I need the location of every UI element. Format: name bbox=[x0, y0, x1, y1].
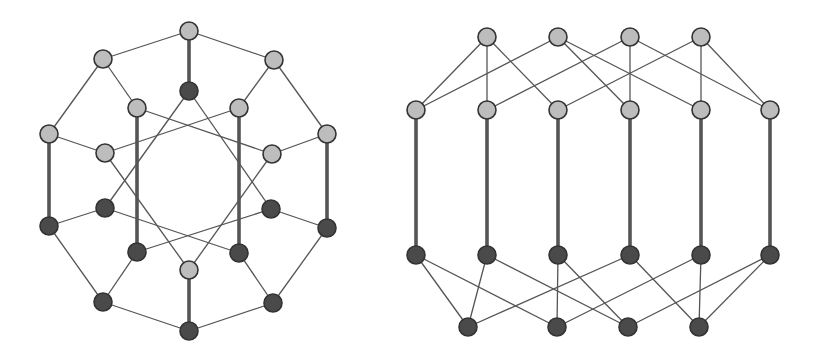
edge-D1-B2 bbox=[416, 255, 557, 327]
light-node-M1 bbox=[407, 101, 425, 119]
edge-D5-B2 bbox=[557, 255, 701, 327]
dark-node-IT bbox=[180, 82, 198, 100]
light-node-M4 bbox=[621, 101, 639, 119]
dark-node-BR bbox=[264, 294, 282, 312]
light-node-M2 bbox=[478, 101, 496, 119]
light-node-T2 bbox=[549, 28, 567, 46]
light-node-T4 bbox=[692, 28, 710, 46]
light-node-T3 bbox=[621, 28, 639, 46]
edge-BR-R2 bbox=[273, 228, 327, 303]
light-node-UR bbox=[265, 51, 283, 69]
light-node-IB bbox=[180, 261, 198, 279]
edge-D6-B4 bbox=[699, 255, 770, 327]
light-node-IUL bbox=[128, 99, 146, 117]
light-node-M3 bbox=[549, 101, 567, 119]
edge-T-UR bbox=[189, 31, 274, 60]
left-graph-edges bbox=[49, 31, 327, 331]
edge-UL-L bbox=[49, 59, 103, 134]
light-node-M6 bbox=[761, 101, 779, 119]
dark-node-D2 bbox=[478, 246, 496, 264]
right-graph-edges bbox=[416, 37, 770, 327]
edge-IUL-MR bbox=[137, 108, 272, 154]
dark-node-D6 bbox=[761, 246, 779, 264]
dark-node-R2 bbox=[318, 219, 336, 237]
edge-L2-BL bbox=[49, 226, 103, 302]
dark-node-D3 bbox=[549, 246, 567, 264]
edge-D1-B1 bbox=[416, 255, 468, 327]
dark-node-B2 bbox=[548, 318, 566, 336]
dark-node-D1 bbox=[407, 246, 425, 264]
edge-D2-B1 bbox=[468, 255, 487, 327]
dark-node-B1 bbox=[459, 318, 477, 336]
edge-B-BR bbox=[189, 303, 273, 331]
edge-T1-M1 bbox=[416, 37, 487, 110]
light-node-T1 bbox=[478, 28, 496, 46]
edge-T3-M6 bbox=[630, 37, 770, 110]
diagram-canvas bbox=[0, 0, 816, 360]
right-graph-nodes bbox=[407, 28, 779, 336]
light-node-UL bbox=[94, 50, 112, 68]
right-graph-layered bbox=[407, 28, 779, 336]
graph-diagram bbox=[0, 0, 816, 360]
light-node-M5 bbox=[692, 101, 710, 119]
dark-node-MR2 bbox=[262, 200, 280, 218]
light-node-R bbox=[318, 125, 336, 143]
dark-node-D4 bbox=[621, 246, 639, 264]
edge-MR2-ILL bbox=[137, 209, 271, 252]
edge-IT-ML2 bbox=[105, 91, 189, 208]
light-node-MR bbox=[263, 145, 281, 163]
edge-T4-M6 bbox=[701, 37, 770, 110]
edge-D4-B4 bbox=[630, 255, 699, 327]
dark-node-BL bbox=[94, 293, 112, 311]
light-node-IUR bbox=[230, 99, 248, 117]
dark-node-L2 bbox=[40, 217, 58, 235]
edge-T-UL bbox=[103, 31, 189, 59]
left-graph-circular bbox=[40, 22, 336, 340]
light-node-ML bbox=[96, 144, 114, 162]
edge-D3-B3 bbox=[558, 255, 628, 327]
edge-T1-M3 bbox=[487, 37, 558, 110]
edge-T2-M4 bbox=[558, 37, 630, 110]
edge-T3-M2 bbox=[487, 37, 630, 110]
dark-node-B3 bbox=[619, 318, 637, 336]
dark-node-B bbox=[180, 322, 198, 340]
edge-UR-R bbox=[274, 60, 327, 134]
dark-node-B4 bbox=[690, 318, 708, 336]
edge-D3-B2 bbox=[557, 255, 558, 327]
dark-node-ILR bbox=[230, 244, 248, 262]
dark-node-ML2 bbox=[96, 199, 114, 217]
dark-node-ILL bbox=[128, 243, 146, 261]
light-node-L bbox=[40, 125, 58, 143]
light-node-T bbox=[180, 22, 198, 40]
edge-ML-IB bbox=[105, 153, 189, 270]
edge-BL-B bbox=[103, 302, 189, 331]
dark-node-D5 bbox=[692, 246, 710, 264]
